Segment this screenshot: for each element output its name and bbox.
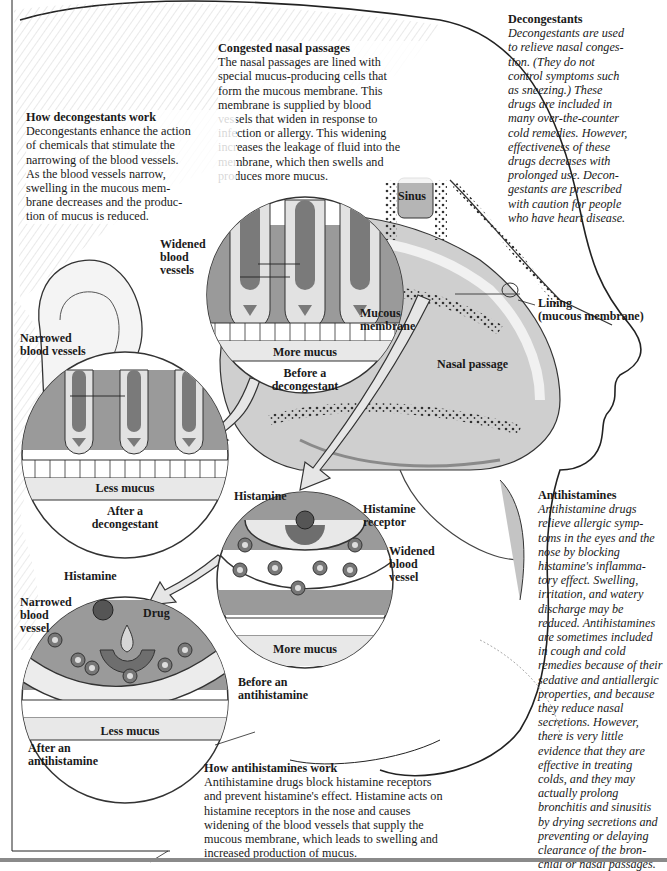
text-line: reduced. Antihistamines (538, 616, 667, 630)
label-before-antihistamine: Before an antihistamine (238, 676, 308, 702)
text-line: are sometimes included (538, 630, 667, 644)
text-line: preventing or delaying (538, 829, 667, 843)
text-line: mucous membrane, which leads to swelling… (204, 832, 504, 846)
label-sinus: Sinus (398, 190, 426, 203)
text-line: many over-the-counter (508, 111, 667, 125)
text-line: by drying secretions and (538, 815, 667, 829)
antihistamines-block: Antihistamines Antihistamine drugs relie… (538, 488, 667, 871)
text-line: membrane, which then swells and (218, 155, 448, 169)
label-line: vessel (20, 622, 72, 635)
text-line: in cough and cold (538, 644, 667, 658)
text-line: histamine's inflamma- (538, 559, 667, 573)
text-line: special mucus-producing cells that (218, 69, 448, 83)
text-line: prolonged use. Decon- (508, 168, 667, 182)
text-line: bronchitis and sinusitis (538, 800, 667, 814)
label-nasal-passage: Nasal passage (437, 358, 508, 371)
label-less-mucus-left: Less mucus (60, 482, 190, 495)
how-decongestants-work-block: How decongestants work Decongestants enh… (26, 110, 236, 224)
text-line: remedies because of their (538, 658, 667, 672)
label-lining: Lining (mucous membrane) (538, 297, 644, 323)
label-histamine-receptor: Histamine receptor (363, 503, 416, 529)
text-line: irritation, and watery (538, 587, 667, 601)
label-narrowed-blood-vessel: Narrowed blood vessel (20, 596, 72, 635)
text-line: properties, and because (538, 687, 667, 701)
label-line: decongestant (240, 380, 370, 393)
text-line: and prevent histamine's effect. Histamin… (204, 789, 504, 803)
label-narrowed-blood-vessels: Narrowed blood vessels (20, 332, 86, 358)
text-line: Decongestants enhance the action (26, 124, 236, 138)
label-after-decongestant: After a decongestant (60, 505, 190, 531)
text-line: they reduce nasal (538, 701, 667, 715)
label-line: membrane (360, 320, 415, 333)
text-line: relieve allergic symp- (538, 516, 667, 530)
label-more-mucus-bottom: More mucus (250, 643, 360, 656)
text-line: As the blood vessels narrow, (26, 167, 236, 181)
text-line: effective in treating (538, 758, 667, 772)
text-line: toms in the eyes and the (538, 531, 667, 545)
text-line: actually prolong (538, 786, 667, 800)
text-line: Antihistamine drugs block histamine rece… (204, 775, 504, 789)
decongestants-block: Decongestants Decongestants are used to … (508, 12, 667, 225)
how-antihistamines-heading: How antihistamines work (204, 761, 504, 775)
text-line: histamine receptors in the nose and caus… (204, 804, 504, 818)
text-line: as sneezing.) These (508, 83, 667, 97)
congested-passages-block: Congested nasal passages The nasal passa… (218, 41, 448, 183)
text-line: drugs decreases with (508, 154, 667, 168)
label-histamine-left: Histamine (64, 570, 117, 583)
text-line: swelling in the mucous mem- (26, 181, 236, 195)
label-mucous-membrane: Mucous membrane (360, 307, 415, 333)
label-line: blood vessels (20, 345, 86, 358)
decongestants-body: Decongestants are used to relieve nasal … (508, 26, 667, 225)
text-line: drugs are included in (508, 97, 667, 111)
label-drug: Drug (143, 607, 170, 620)
text-line: narrowing of the blood vessels. (26, 153, 236, 167)
text-line: with caution for people (508, 197, 667, 211)
text-line: Antihistamine drugs (538, 502, 667, 516)
text-line: of chemicals that stimulate the (26, 138, 236, 152)
decongestants-heading: Decongestants (508, 12, 667, 26)
text-line: form the mucous membrane. This (218, 84, 448, 98)
label-line: receptor (363, 516, 416, 529)
arrow-icon (148, 555, 225, 605)
label-line: antihistamine (28, 755, 98, 768)
text-line: widening of the blood vessels that suppl… (204, 818, 504, 832)
text-line: membrane is supplied by blood (218, 98, 448, 112)
text-line: tion. (They do not (508, 55, 667, 69)
label-before-decongestant: Before a decongestant (240, 367, 370, 393)
text-line: effectiveness of these (508, 140, 667, 154)
label-line: (mucous membrane) (538, 310, 644, 323)
congested-heading: Congested nasal passages (218, 41, 448, 55)
text-line: nose by blocking (538, 545, 667, 559)
how-antihistamines-work-block: How antihistamines work Antihistamine dr… (204, 761, 504, 860)
label-line: decongestant (60, 518, 190, 531)
text-line: The nasal passages are lined with (218, 55, 448, 69)
bottom-rule (0, 858, 667, 862)
text-line: tion of mucus is reduced. (26, 209, 236, 223)
text-line: who have heart disease. (508, 211, 667, 225)
text-line: to relieve nasal conges- (508, 40, 667, 54)
label-less-mucus-bottom: Less mucus (70, 725, 190, 738)
text-line: vessels that widen in response to (218, 112, 448, 126)
text-line: produces more mucus. (218, 169, 448, 183)
text-line: there is very little (538, 729, 667, 743)
text-line: tory effect. Swelling, (538, 573, 667, 587)
text-line: gestants are prescribed (508, 182, 667, 196)
text-line: colds, and they may (538, 772, 667, 786)
text-line: clearance of the bron- (538, 843, 667, 857)
label-line: vessel (389, 571, 435, 584)
text-line: cold remedies. However, (508, 126, 667, 140)
label-line: antihistamine (238, 689, 308, 702)
how-decongestants-heading: How decongestants work (26, 110, 236, 124)
text-line: secretions. However, (538, 715, 667, 729)
text-line: sedative and antiallergic (538, 673, 667, 687)
text-line: discharge may be (538, 602, 667, 616)
label-widened-blood-vessels: Widened blood vessels (160, 238, 206, 277)
text-line: evidence that they are (538, 744, 667, 758)
text-line: infection or allergy. This widening (218, 126, 448, 140)
label-histamine-right: Histamine (234, 490, 287, 503)
text-line: control symptoms such (508, 69, 667, 83)
antihistamines-body: Antihistamine drugs relieve allergic sym… (538, 502, 667, 871)
text-line: brane decreases and the produc- (26, 195, 236, 209)
label-widened-blood-vessel: Widened blood vessel (389, 545, 435, 584)
